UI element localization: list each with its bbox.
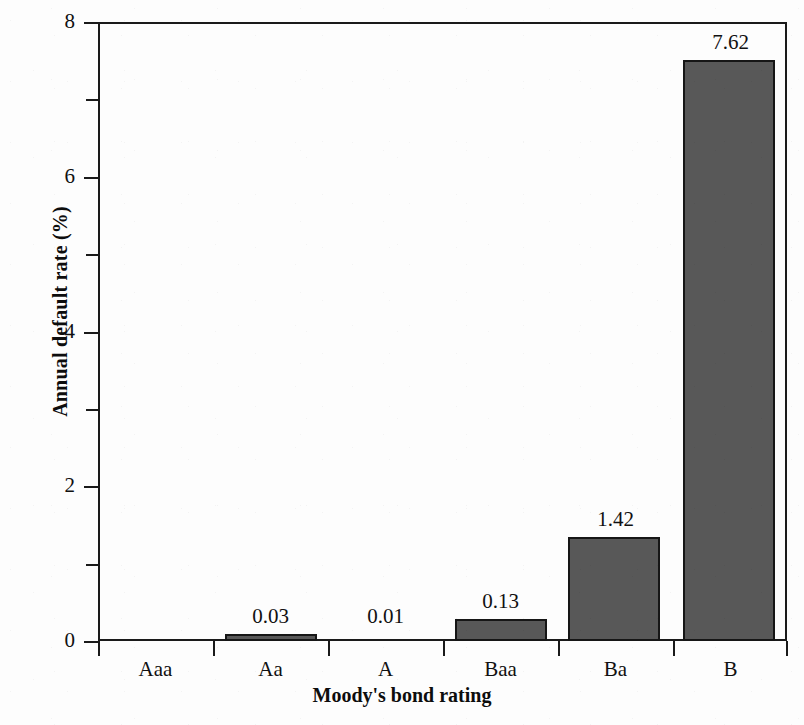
bar-baa[interactable] [455, 619, 547, 641]
y-tick-label-2: 2 [15, 475, 75, 496]
y-tick-label-4: 4 [15, 321, 75, 342]
y-tick-8 [84, 22, 98, 24]
x-tick-label-aa: Aa [213, 657, 328, 681]
y-tick-minor-3 [86, 409, 98, 411]
y-tick-2 [84, 486, 98, 488]
x-tick-0 [98, 641, 100, 656]
y-tick-label-0: 0 [15, 630, 75, 651]
y-tick-0 [84, 641, 98, 643]
x-tick-1 [213, 641, 215, 656]
x-tick-label-baa: Baa [443, 657, 558, 681]
y-tick-6 [84, 177, 98, 179]
x-axis-title: Moody's bond rating [0, 684, 804, 707]
x-tick-label-a: A [328, 657, 443, 681]
x-tick-6 [786, 641, 788, 656]
x-tick-label-b: B [673, 657, 788, 681]
x-tick-3 [443, 641, 445, 656]
y-tick-4 [84, 332, 98, 334]
x-tick-2 [328, 641, 330, 656]
bar-aa[interactable] [225, 634, 317, 641]
bar-ba[interactable] [568, 537, 660, 641]
bar-value-ba: 1.42 [558, 509, 673, 530]
y-tick-minor-5 [86, 254, 98, 256]
bar-value-a: 0.01 [328, 606, 443, 627]
y-tick-minor-7 [86, 99, 98, 101]
chart-page: Annual default rate (%) 8 6 4 2 0 Aaa Aa… [0, 0, 804, 725]
bar-value-baa: 0.13 [443, 591, 558, 612]
y-tick-label-6: 6 [15, 166, 75, 187]
bar-value-aa: 0.03 [213, 606, 328, 627]
y-tick-label-8: 8 [15, 11, 75, 32]
x-tick-label-aaa: Aaa [98, 657, 213, 681]
x-tick-label-ba: Ba [558, 657, 673, 681]
bar-b[interactable] [683, 60, 775, 641]
x-tick-5 [673, 641, 675, 656]
y-tick-minor-1 [86, 564, 98, 566]
x-tick-4 [558, 641, 560, 656]
bar-value-b: 7.62 [673, 32, 788, 53]
